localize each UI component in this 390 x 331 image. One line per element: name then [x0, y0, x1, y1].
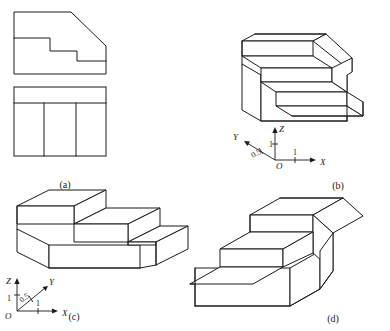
panel-c-caption: (c)	[54, 311, 94, 322]
y-axis-value: 0.5	[249, 147, 262, 160]
z-axis-value: 1	[7, 294, 11, 303]
step-2-left-face	[74, 224, 128, 242]
y-axis-label: Y	[233, 132, 239, 142]
panel-a-drawing	[0, 0, 195, 175]
top-view	[14, 87, 106, 156]
y-axis-label: Y	[49, 277, 55, 287]
upper-wall-front-face	[250, 215, 313, 232]
figure-canvas: (a)	[0, 0, 390, 331]
right-bottom-edge	[140, 265, 156, 268]
panel-d-caption: (d)	[313, 313, 353, 324]
panel-b-solid	[242, 34, 363, 121]
upper-wall-top-face	[242, 34, 326, 41]
x-axis-value: 1	[36, 299, 40, 308]
z-axis-arrow	[14, 278, 19, 284]
x-axis-value: 1	[293, 148, 297, 157]
panel-d-solid	[190, 198, 363, 306]
z-axis-value: 1	[269, 140, 273, 149]
z-axis-arrow	[272, 127, 277, 133]
step-1-top-face	[242, 56, 332, 68]
x-axis-arrow	[310, 157, 316, 162]
upper-wall-front-face	[242, 41, 313, 56]
panel-b-axes: Z X Y O 1 1 0.5	[233, 124, 326, 171]
origin-label: O	[276, 161, 283, 171]
y-axis-value: 0.5	[18, 291, 31, 304]
z-axis-label: Z	[6, 276, 12, 286]
y-axis-arrow	[244, 141, 250, 146]
step-2-riser-face	[276, 92, 347, 106]
front-view-outline	[14, 12, 106, 74]
step-3-left-face	[128, 242, 156, 245]
base-left-face	[17, 229, 49, 268]
step-1-riser-face	[220, 249, 283, 267]
y-axis-arrow	[43, 286, 48, 291]
panel-c-drawing: Z X Y O 1 1 0.5	[0, 175, 195, 331]
panel-d-drawing	[195, 175, 390, 331]
top-view-outline	[14, 87, 106, 156]
step-1-riser-face	[261, 68, 332, 82]
step-1-left-face	[17, 206, 74, 224]
base-front-face	[242, 64, 261, 121]
front-view	[14, 12, 106, 74]
panel-c-solid	[17, 190, 188, 268]
origin-label: O	[5, 311, 12, 321]
panel-b-drawing: Z X Y O 1 1 0.5	[195, 0, 390, 175]
base-front-face	[49, 245, 140, 268]
z-axis-label: Z	[279, 124, 285, 134]
x-axis-label: X	[319, 157, 326, 167]
